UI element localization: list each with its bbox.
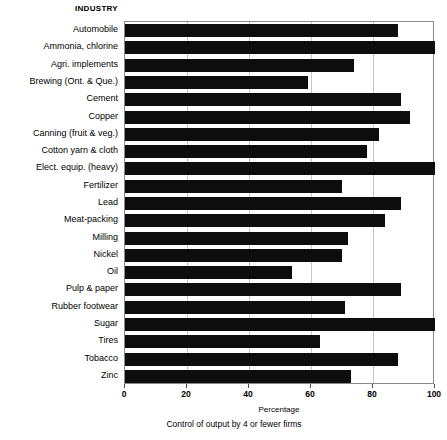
x-axis-label: Percentage — [124, 405, 434, 415]
x-tick-mark — [434, 384, 435, 388]
x-axis: 020406080100 — [124, 384, 434, 406]
category-label-column: AutomobileAmmonia, chlorineAgri. impleme… — [0, 21, 118, 384]
x-tick-label: 80 — [367, 389, 376, 399]
x-tick-mark — [248, 384, 249, 388]
bar — [125, 180, 342, 193]
category-label: Tires — [0, 335, 118, 346]
bar — [125, 353, 398, 366]
bar — [125, 266, 292, 279]
category-label: Tobacco — [0, 353, 118, 364]
bar — [125, 283, 401, 296]
category-label: Brewing (Ont. & Que.) — [0, 76, 118, 87]
industry-column-header: INDUSTRY — [0, 4, 118, 14]
bar — [125, 128, 379, 141]
bar — [125, 335, 320, 348]
bar — [125, 76, 308, 89]
category-label: Copper — [0, 111, 118, 122]
category-label: Canning (fruit & veg.) — [0, 128, 118, 139]
category-label: Pulp & paper — [0, 283, 118, 294]
bar — [125, 197, 401, 210]
category-label: Cotton yarn & cloth — [0, 145, 118, 156]
bar — [125, 59, 354, 72]
category-label: Lead — [0, 197, 118, 208]
bar — [125, 145, 367, 158]
bar — [125, 318, 435, 331]
category-label: Automobile — [0, 24, 118, 35]
category-label: Elect. equip. (heavy) — [0, 162, 118, 173]
bar — [125, 93, 401, 106]
bar — [125, 41, 435, 54]
category-label: Fertilizer — [0, 180, 118, 191]
category-label: Cement — [0, 93, 118, 104]
category-label: Zinc — [0, 370, 118, 381]
x-tick-label: 60 — [305, 389, 314, 399]
category-label: Milling — [0, 232, 118, 243]
category-label: Sugar — [0, 318, 118, 329]
bar-chart-figure: INDUSTRY AutomobileAmmonia, chlorineAgri… — [0, 0, 447, 440]
bar — [125, 232, 348, 245]
category-label: Ammonia, chlorine — [0, 41, 118, 52]
bar — [125, 24, 398, 37]
category-label: Oil — [0, 266, 118, 277]
bar — [125, 214, 385, 227]
bar — [125, 301, 345, 314]
x-tick-label: 0 — [122, 389, 127, 399]
x-tick-label: 20 — [181, 389, 190, 399]
plot-area — [124, 21, 434, 384]
bar-series — [125, 22, 433, 383]
bar — [125, 162, 435, 175]
category-label: Nickel — [0, 249, 118, 260]
category-label: Agri. implements — [0, 59, 118, 70]
x-tick-mark — [124, 384, 125, 388]
category-label: Meat-packing — [0, 214, 118, 225]
bar — [125, 370, 351, 383]
category-label: Rubber footwear — [0, 301, 118, 312]
x-tick-label: 100 — [427, 389, 441, 399]
x-tick-label: 40 — [243, 389, 252, 399]
x-tick-mark — [310, 384, 311, 388]
x-tick-mark — [372, 384, 373, 388]
chart-caption: Control of output by 4 or fewer firms — [34, 419, 434, 429]
bar — [125, 111, 410, 124]
bar — [125, 249, 342, 262]
x-tick-mark — [186, 384, 187, 388]
